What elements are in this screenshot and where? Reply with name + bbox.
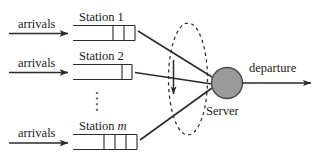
station-2-label: Station 2	[79, 50, 124, 63]
server-label: Server	[206, 105, 239, 118]
station-2-name: Station	[79, 49, 114, 63]
queue-station-2	[73, 65, 132, 80]
departure-label: departure	[249, 62, 296, 75]
arrivals-label-3: arrivals	[18, 127, 55, 140]
queue-station-m	[73, 135, 137, 150]
connector-station-m-to-server	[140, 88, 212, 140]
station-2-index: 2	[118, 49, 124, 63]
station-m-index: m	[118, 119, 127, 133]
queue-station-1	[73, 26, 135, 41]
arrivals-label-1: arrivals	[18, 18, 55, 31]
server-node	[212, 68, 243, 99]
station-m-label: Station m	[79, 120, 127, 133]
station-1-index: 1	[118, 10, 124, 24]
arrivals-label-2: arrivals	[18, 57, 55, 70]
station-1-label: Station 1	[79, 11, 124, 24]
queueing-system-diagram: arrivals arrivals arrivals Station 1 Sta…	[0, 0, 321, 156]
station-1-name: Station	[79, 10, 114, 24]
station-m-name: Station	[79, 119, 114, 133]
